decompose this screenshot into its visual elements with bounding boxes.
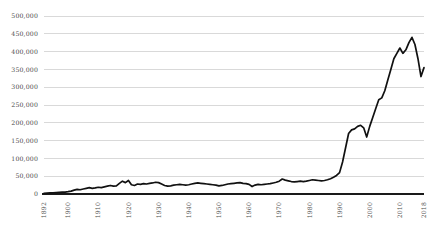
y-axis-tick-label: 500,000 (11, 12, 38, 19)
y-axis-tick-label: 350,000 (11, 66, 38, 73)
y-axis-tick-label: 250,000 (11, 101, 38, 108)
data-series-line (44, 37, 424, 193)
y-axis-tick-label: 100,000 (11, 155, 38, 162)
x-axis-tick-label: 1892 (40, 202, 47, 218)
x-axis-tick-label: 2018 (420, 202, 427, 218)
x-axis-tick-label: 1920 (125, 202, 132, 218)
x-axis-tick-label: 1990 (336, 202, 343, 218)
y-axis-tick-label: 50,000 (15, 172, 38, 179)
y-axis-tick-label: 400,000 (11, 48, 38, 55)
x-axis-tick-label: 1960 (245, 202, 252, 218)
x-axis-tick-label: 1970 (275, 202, 282, 218)
gridline-group (44, 16, 424, 176)
x-axis-tick-labels: 1892190019101920193019401950196019701980… (40, 202, 427, 218)
x-axis-tick-label: 1910 (94, 202, 101, 218)
x-axis-tick-label: 1940 (185, 202, 192, 218)
chart-canvas: 500,000450,000400,000350,000300,000250,0… (0, 0, 438, 229)
y-axis-tick-label: 300,000 (11, 83, 38, 90)
y-axis-tick-label: 150,000 (11, 137, 38, 144)
y-axis-tick-label: 450,000 (11, 30, 38, 37)
line-chart: 500,000450,000400,000350,000300,000250,0… (0, 0, 438, 229)
x-axis-tick-label: 1950 (215, 202, 222, 218)
x-axis-tick-label: 1980 (306, 202, 313, 218)
x-axis-tick-label: 1900 (64, 202, 71, 218)
y-axis-tick-label: 200,000 (11, 119, 38, 126)
x-axis-tick-label: 2010 (396, 202, 403, 218)
y-axis-tick-labels: 500,000450,000400,000350,000300,000250,0… (11, 12, 38, 197)
y-axis-tick-label: 0 (34, 190, 38, 197)
x-axis-tick-label: 2000 (366, 202, 373, 218)
x-axis-tick-label: 1930 (155, 202, 162, 218)
